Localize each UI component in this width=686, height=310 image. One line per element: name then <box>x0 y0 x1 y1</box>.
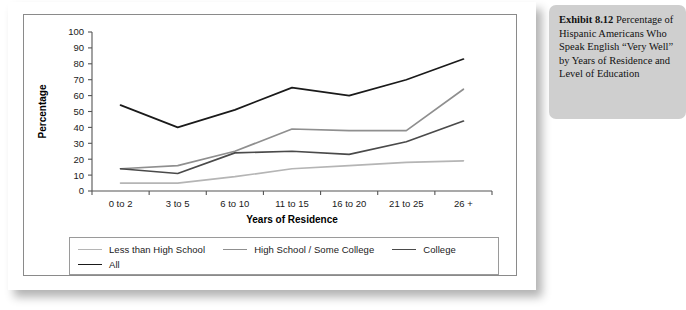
legend-swatch-high-school-some-college <box>223 249 247 250</box>
y-axis-tick-label: 70 <box>73 74 84 85</box>
x-axis-tick-label: 26 + <box>454 198 473 209</box>
exhibit-caption-panel: Exhibit 8.12 Percentage of Hispanic Amer… <box>549 5 686 119</box>
legend-label-college: College <box>423 244 456 255</box>
x-axis-title: Years of Residence <box>246 214 338 225</box>
x-axis-tick-label: 6 to 10 <box>220 198 249 209</box>
x-axis-tick-label: 3 to 5 <box>166 198 190 209</box>
y-axis-tick-label: 0 <box>79 185 84 196</box>
y-axis-tick-label: 40 <box>73 122 84 133</box>
x-axis-tick-label: 11 to 15 <box>275 198 309 209</box>
legend-item-all: All <box>78 259 120 270</box>
exhibit-caption-text: Exhibit 8.12 Percentage of Hispanic Amer… <box>559 13 679 81</box>
legend-swatch-all <box>78 264 102 265</box>
legend-item-college: College <box>392 244 456 255</box>
x-axis-tick-label: 21 to 25 <box>389 198 423 209</box>
legend-row-2: All <box>78 257 498 272</box>
chart-frame: 0102030405060708090100Percentage0 to 23 … <box>23 14 517 276</box>
y-axis-tick-label: 30 <box>73 138 84 149</box>
chart-plot-area: 0102030405060708090100Percentage0 to 23 … <box>24 15 518 233</box>
y-axis-title: Percentage <box>37 84 48 138</box>
legend-label-less-than-high-school: Less than High School <box>109 244 205 255</box>
y-axis-tick-label: 50 <box>73 106 84 117</box>
y-axis-tick-label: 20 <box>73 154 84 165</box>
legend-swatch-less-than-high-school <box>78 249 102 250</box>
legend-label-all: All <box>109 259 120 270</box>
series-line-less-than-high-school <box>121 161 464 183</box>
x-axis-tick-label: 0 to 2 <box>109 198 133 209</box>
y-axis-tick-label: 90 <box>73 42 84 53</box>
exhibit-caption-lead: Exhibit 8.12 <box>559 14 613 25</box>
y-axis-tick-label: 10 <box>73 170 84 181</box>
legend-row-1: Less than High School High School / Some… <box>78 242 498 257</box>
figure-card: 0102030405060708090100Percentage0 to 23 … <box>8 2 536 290</box>
legend-item-less-than-high-school: Less than High School <box>78 244 205 255</box>
x-axis-tick-label: 16 to 20 <box>332 198 366 209</box>
chart-legend: Less than High School High School / Some… <box>69 237 499 275</box>
y-axis-tick-label: 60 <box>73 90 84 101</box>
series-line-all <box>121 59 464 127</box>
y-axis-tick-label: 80 <box>73 58 84 69</box>
series-line-high-school-some-college <box>121 89 464 169</box>
line-chart: 0102030405060708090100Percentage0 to 23 … <box>24 15 518 233</box>
legend-item-high-school-some-college: High School / Some College <box>223 244 374 255</box>
legend-swatch-college <box>392 249 416 250</box>
y-axis-tick-label: 100 <box>68 26 84 37</box>
legend-label-high-school-some-college: High School / Some College <box>254 244 374 255</box>
